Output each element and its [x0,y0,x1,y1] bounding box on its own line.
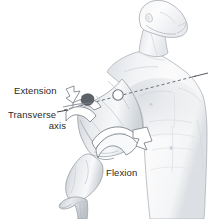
navel-mark [170,146,173,150]
transverse-axis-solid-tip [192,73,208,77]
label-transverse-axis: Transverse axis [8,109,72,131]
flexion-arrow-tail [98,158,114,160]
glenohumeral-joint-axis-point [113,90,123,100]
label-extension: Extension [14,85,57,96]
label-flexion: Flexion [106,167,137,178]
ear-shape [146,14,153,22]
forearm-shape [66,154,103,201]
label-transverse-line1: Transverse [8,109,56,120]
label-transverse-line2: axis [8,120,72,131]
nipple-mark [149,103,152,106]
anatomy-figure: Extension Transverse axis Flexion [0,0,209,219]
